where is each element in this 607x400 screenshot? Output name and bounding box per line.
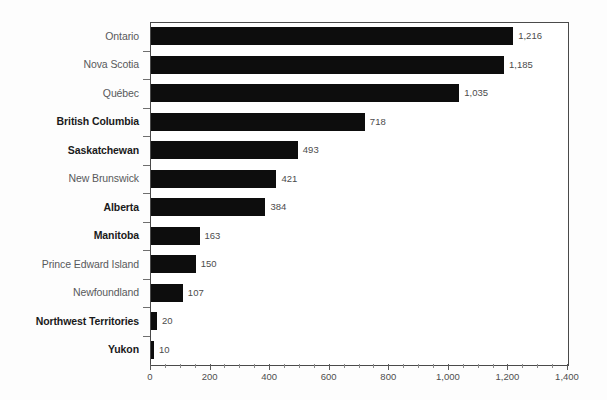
category-label: British Columbia xyxy=(0,116,139,127)
bar xyxy=(151,227,200,245)
bar xyxy=(151,284,183,302)
bars-layer: 1,2161,1851,0357184934213841631501072010 xyxy=(151,22,568,364)
category-label-column: OntarioNova ScotiaQuébecBritish Columbia… xyxy=(0,22,145,364)
bar-value-label: 20 xyxy=(162,316,173,326)
bar-value-label: 1,035 xyxy=(464,88,488,98)
category-label: Newfoundland xyxy=(0,287,139,298)
x-axis-tick-label: 400 xyxy=(261,372,277,382)
x-axis-tick-label: 200 xyxy=(202,372,218,382)
x-axis-tick-label: 800 xyxy=(380,372,396,382)
y-axis-tick xyxy=(143,193,150,194)
y-axis-tick xyxy=(143,51,150,52)
bar-value-label: 107 xyxy=(188,288,204,298)
bar xyxy=(151,56,504,74)
y-axis-tick xyxy=(143,250,150,251)
y-axis-tick xyxy=(143,336,150,337)
x-axis-tick xyxy=(269,364,270,370)
bar xyxy=(151,198,265,216)
y-axis-tick xyxy=(143,222,150,223)
x-axis-minor-tick xyxy=(373,364,374,368)
bar-value-label: 10 xyxy=(159,345,170,355)
x-axis-minor-tick xyxy=(359,364,360,368)
x-axis-minor-tick xyxy=(239,364,240,368)
bar-value-label: 150 xyxy=(201,259,217,269)
bar xyxy=(151,113,365,131)
bar-value-label: 163 xyxy=(205,231,221,241)
bar-value-label: 718 xyxy=(370,117,386,127)
bar-value-label: 1,185 xyxy=(509,60,533,70)
x-axis-tick-label: 1,000 xyxy=(436,372,460,382)
x-axis-tick-label: 1,200 xyxy=(496,372,520,382)
x-axis-minor-tick xyxy=(344,364,345,368)
x-axis-minor-tick xyxy=(463,364,464,368)
category-label: Québec xyxy=(0,88,139,99)
x-axis-minor-tick xyxy=(418,364,419,368)
x-axis-tick-label: 1,400 xyxy=(555,372,579,382)
x-axis-minor-tick xyxy=(299,364,300,368)
category-label: Prince Edward Island xyxy=(0,259,139,270)
y-axis-tick xyxy=(143,79,150,80)
x-axis-minor-tick xyxy=(552,364,553,368)
x-axis-tick xyxy=(567,364,568,370)
x-axis-minor-tick xyxy=(195,364,196,368)
x-axis-minor-tick xyxy=(284,364,285,368)
y-axis-tick xyxy=(143,108,150,109)
x-axis-minor-tick xyxy=(522,364,523,368)
bar xyxy=(151,255,196,273)
x-axis-minor-tick xyxy=(403,364,404,368)
x-axis-tick xyxy=(448,364,449,370)
x-axis-minor-tick xyxy=(254,364,255,368)
x-axis-minor-tick xyxy=(478,364,479,368)
category-label: Nova Scotia xyxy=(0,59,139,70)
category-label: Saskatchewan xyxy=(0,145,139,156)
category-label: Ontario xyxy=(0,31,139,42)
category-label: Yukon xyxy=(0,344,139,355)
x-axis-minor-tick xyxy=(224,364,225,368)
x-axis-minor-tick xyxy=(433,364,434,368)
bar-value-label: 493 xyxy=(303,145,319,155)
bar xyxy=(151,84,459,102)
x-axis-tick-label: 600 xyxy=(321,372,337,382)
bar-value-label: 384 xyxy=(270,202,286,212)
x-axis-tick xyxy=(210,364,211,370)
bar xyxy=(151,341,154,359)
bar xyxy=(151,312,157,330)
y-axis-tick xyxy=(143,307,150,308)
x-axis-minor-tick xyxy=(165,364,166,368)
category-label: New Brunswick xyxy=(0,173,139,184)
x-axis-tick xyxy=(507,364,508,370)
x-axis-tick xyxy=(329,364,330,370)
x-axis-minor-tick xyxy=(493,364,494,368)
y-axis-tick xyxy=(143,136,150,137)
x-axis-minor-tick xyxy=(314,364,315,368)
y-axis-tick xyxy=(143,279,150,280)
x-axis-tick-label: 0 xyxy=(147,372,152,382)
bar-value-label: 1,216 xyxy=(518,31,542,41)
bar xyxy=(151,141,298,159)
x-axis-minor-tick xyxy=(180,364,181,368)
bar xyxy=(151,170,276,188)
category-label: Manitoba xyxy=(0,230,139,241)
y-axis-tick xyxy=(143,165,150,166)
x-axis-minor-tick xyxy=(537,364,538,368)
x-axis: 02004006008001,0001,2001,400 xyxy=(150,364,568,394)
x-axis-tick xyxy=(388,364,389,370)
category-label: Alberta xyxy=(0,202,139,213)
category-label: Northwest Territories xyxy=(0,316,139,327)
x-axis-tick xyxy=(150,364,151,370)
bar-value-label: 421 xyxy=(281,174,297,184)
bar-chart: OntarioNova ScotiaQuébecBritish Columbia… xyxy=(0,0,607,400)
bar xyxy=(151,27,513,45)
